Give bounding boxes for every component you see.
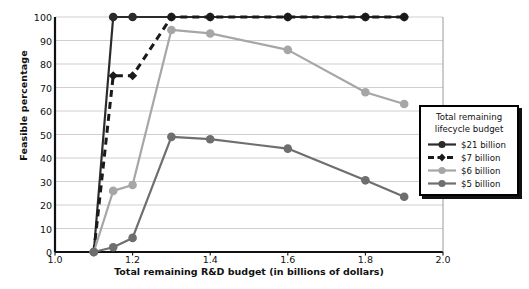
series-3: [90, 26, 409, 257]
chart-svg: [55, 17, 443, 252]
y-axis-tick-labels: 0102030405060708090100: [22, 0, 52, 289]
plot-area: [55, 17, 443, 252]
data-point-marker: [109, 13, 118, 22]
data-point-marker: [109, 71, 118, 80]
data-point-marker: [361, 12, 370, 21]
x-axis-title: Total remaining R&D budget (in billions …: [55, 266, 443, 277]
legend-item: $7 billion: [427, 151, 511, 164]
data-point-marker: [283, 12, 292, 21]
data-point-marker: [400, 192, 409, 201]
y-tick-label: 90: [24, 35, 52, 46]
legend-swatch: [427, 139, 457, 150]
data-point-marker: [109, 187, 118, 196]
legend-swatch: [427, 165, 457, 176]
x-tick-label: 1.0: [35, 254, 75, 265]
legend-swatch: [427, 178, 457, 189]
legend-item: $6 billion: [427, 164, 511, 177]
legend-swatch: [427, 152, 457, 163]
legend-label: $7 billion: [457, 153, 500, 163]
legend-label: $6 billion: [457, 166, 500, 176]
legend-entries: $21 billion$7 billion$6 billion$5 billio…: [427, 138, 511, 190]
x-tick-label: 1.6: [268, 254, 308, 265]
data-point-marker: [361, 88, 370, 97]
data-point-marker: [128, 13, 137, 22]
y-tick-label: 80: [24, 59, 52, 70]
data-point-marker: [128, 181, 137, 190]
x-tick-label: 1.2: [113, 254, 153, 265]
x-tick-label: 1.4: [190, 254, 230, 265]
series-4: [90, 133, 409, 257]
data-point-marker: [284, 46, 293, 55]
data-point-marker: [90, 248, 99, 257]
data-point-marker: [206, 12, 215, 21]
legend-title-line-1: Total remaining: [427, 112, 511, 124]
legend-title: Total remaining lifecycle budget: [427, 112, 511, 135]
y-tick-label: 70: [24, 82, 52, 93]
y-tick-label: 30: [24, 176, 52, 187]
data-point-marker: [128, 234, 137, 243]
data-point-marker: [400, 100, 409, 109]
legend-label: $21 billion: [457, 140, 506, 150]
y-tick-label: 20: [24, 200, 52, 211]
data-point-marker: [206, 29, 215, 38]
data-point-marker: [361, 176, 370, 185]
legend: Total remaining lifecycle budget $21 bil…: [419, 105, 519, 196]
y-tick-label: 10: [24, 223, 52, 234]
data-point-marker: [128, 71, 137, 80]
legend-item: $5 billion: [427, 177, 511, 190]
axis-lines: [55, 17, 443, 256]
chart-figure: Feasible percentage Total remaining R&D …: [0, 0, 529, 289]
x-tick-label: 1.8: [345, 254, 385, 265]
x-tick-label: 2.0: [423, 254, 463, 265]
data-point-marker: [206, 135, 215, 144]
data-point-marker: [167, 133, 176, 142]
data-point-marker: [400, 12, 409, 21]
data-point-marker: [167, 26, 176, 35]
y-tick-label: 50: [24, 129, 52, 140]
legend-item: $21 billion: [427, 138, 511, 151]
y-tick-label: 60: [24, 106, 52, 117]
legend-title-line-2: lifecycle budget: [427, 124, 511, 136]
y-tick-label: 40: [24, 153, 52, 164]
data-point-marker: [109, 243, 118, 252]
data-point-marker: [167, 12, 176, 21]
gridlines: [55, 17, 443, 229]
data-point-marker: [284, 144, 293, 153]
legend-label: $5 billion: [457, 179, 500, 189]
y-tick-label: 100: [24, 12, 52, 23]
